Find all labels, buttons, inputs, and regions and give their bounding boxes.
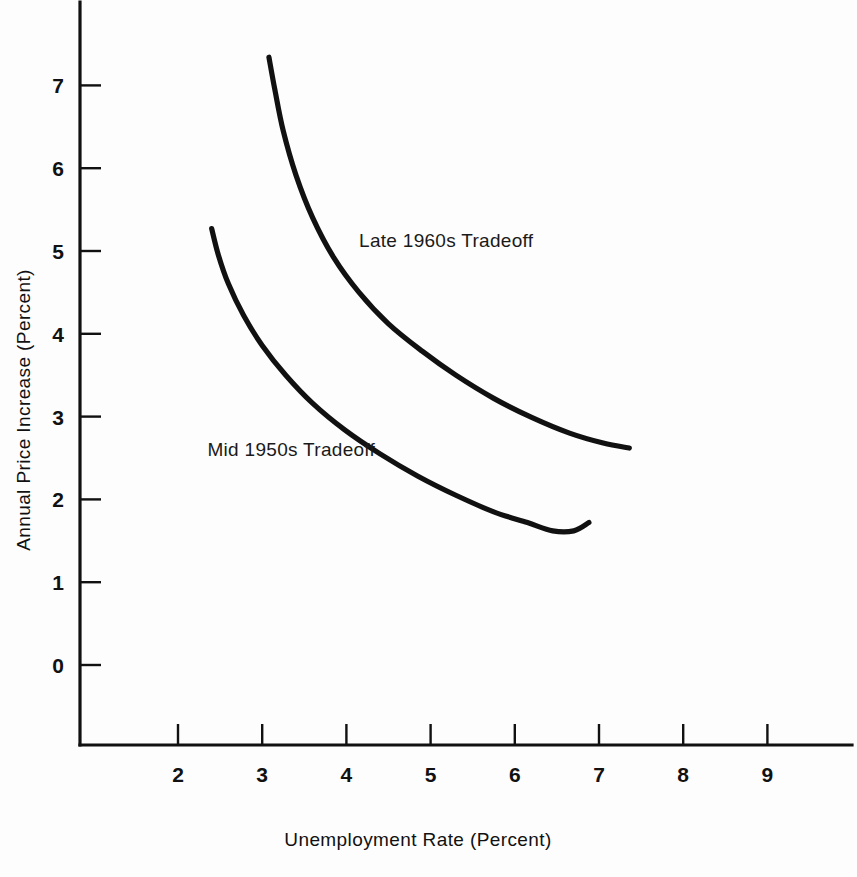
series-label: Late 1960s Tradeoff: [359, 230, 534, 251]
series-label: Mid 1950s Tradeoff: [207, 439, 375, 460]
x-axis-tick-label: 4: [341, 763, 353, 786]
y-axis-tick-label: 3: [52, 406, 64, 429]
axes: [80, 2, 852, 745]
y-axis-tick-label: 6: [52, 157, 64, 180]
series-curve: [269, 57, 629, 448]
y-axis-tick-label: 1: [52, 571, 64, 594]
x-axis-tick-label: 9: [762, 763, 774, 786]
y-axis-tick-label: 2: [52, 488, 64, 511]
x-axis-tick-label: 7: [593, 763, 605, 786]
x-axis-tick-label: 6: [509, 763, 521, 786]
axis-tick-labels: 0123456723456789: [52, 74, 773, 786]
x-axis-tick-label: 8: [677, 763, 689, 786]
y-axis-title: Annual Price Increase (Percent): [13, 269, 34, 551]
series-curve: [212, 229, 589, 532]
x-axis-tick-label: 5: [425, 763, 437, 786]
y-axis-tick-label: 7: [52, 74, 64, 97]
x-axis-tick-label: 3: [256, 763, 268, 786]
axis-ticks: [80, 85, 767, 745]
phillips-curve-chart: 0123456723456789 Late 1960s TradeoffMid …: [0, 0, 857, 877]
chart-figure: 0123456723456789 Late 1960s TradeoffMid …: [0, 0, 857, 877]
series-curves: [212, 57, 630, 532]
x-axis-title: Unemployment Rate (Percent): [284, 829, 551, 850]
y-axis-tick-label: 4: [52, 323, 64, 346]
y-axis-tick-label: 0: [52, 654, 64, 677]
y-axis-tick-label: 5: [52, 240, 64, 263]
x-axis-tick-label: 2: [172, 763, 184, 786]
series-labels: Late 1960s TradeoffMid 1950s Tradeoff: [207, 230, 533, 460]
axis-titles: Unemployment Rate (Percent) Annual Price…: [13, 269, 552, 850]
